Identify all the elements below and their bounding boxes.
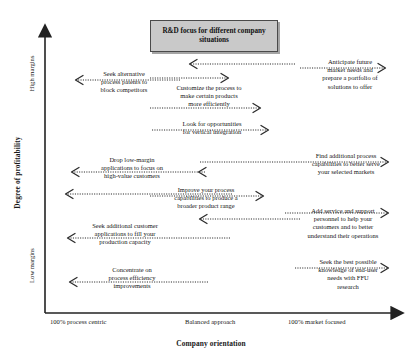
diagram-title-box: R&D focus for different company situatio… [150,20,278,52]
note-seek-additional-customer-applications: Seek additional customer applications to… [63,222,187,247]
x-axis-tick-balanced-approach: Balanced approach [185,318,235,325]
note-customize-the-process: Customize the process to make certain pr… [150,84,268,109]
note-anticipate-future-market-needs: Anticipate future market needs and prepa… [298,58,402,91]
arrows-svg [0,0,411,358]
note-concentrate-on-process-efficiency: Concentrate on process efficiency improv… [70,266,194,291]
note-look-for-opportunities-vertical-integration: Look for opportunities for vertical inte… [155,120,269,136]
arrowhead-customize-upper-right [221,74,229,83]
y-axis-high-label: High margins [28,47,35,101]
note-seek-best-possible-knowledge-end-user: Seek the best possible knowledge of end-… [292,258,404,291]
x-axis-title: Company orientation [136,339,286,348]
y-axis-low-label: Low margins [28,239,35,293]
note-improve-your-process-capabilities: Improve your process capabilities to pro… [148,186,264,211]
y-axis-title: Degree of profitability [13,118,22,228]
arrowhead-broader-left [200,215,208,224]
arrowhead-improve-left [66,190,74,199]
note-find-additional-process-capabilities: Find additional process capabilities to … [290,152,402,177]
x-axis-tick-market-focused: 100% market focused [288,318,346,325]
arrowhead-drop-low-right [199,168,207,177]
note-add-service-and-support-personnel: Add service and support personnel to hel… [284,207,402,240]
x-axis-tick-process-centric: 100% process centric [50,318,106,325]
axes-svg [0,0,411,358]
note-drop-low-margin-applications: Drop low-margin applications to focus on… [70,156,194,181]
diagram-title-text: R&D focus for different company situatio… [151,27,277,45]
arrowhead-title-left [190,60,198,69]
diagram-canvas: Degree of profitability High margins Low… [0,0,411,358]
